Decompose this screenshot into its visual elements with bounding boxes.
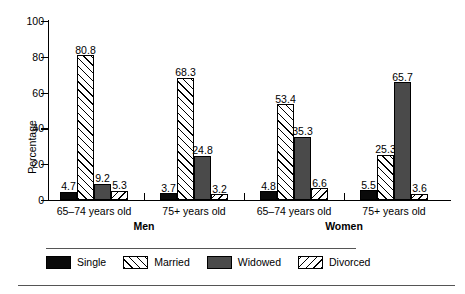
bar-value-label: 9.2 <box>95 173 110 184</box>
chart-legend: SingleMarriedWidowedDivorced <box>46 256 370 269</box>
bar-divorced-1: 3.2 <box>211 194 228 200</box>
legend-item-widowed[interactable]: Widowed <box>207 256 281 269</box>
legend-item-single[interactable]: Single <box>46 256 106 269</box>
group-separator-tick <box>244 193 245 200</box>
bar-value-label: 68.3 <box>175 67 195 78</box>
y-axis-tick-label: 40 <box>32 123 44 134</box>
bar-value-label: 25.3 <box>375 144 395 155</box>
bar-value-label: 3.7 <box>161 183 176 194</box>
legend-item-divorced[interactable]: Divorced <box>298 256 370 269</box>
legend-swatch-divorced <box>298 256 323 269</box>
y-axis-tick-label: 20 <box>32 159 44 170</box>
legend-label: Widowed <box>238 257 281 268</box>
bar-divorced-0: 5.3 <box>111 191 128 200</box>
bar-value-label: 5.3 <box>112 180 127 191</box>
y-axis-tick-label: 60 <box>32 87 44 98</box>
bottom-divider <box>18 285 455 286</box>
bar-value-label: 80.8 <box>75 45 95 56</box>
group-separator-tick <box>144 193 145 200</box>
bar-value-label: 4.8 <box>261 181 276 192</box>
legend-label: Single <box>77 257 106 268</box>
legend-label: Divorced <box>329 257 370 268</box>
bar-married-0: 80.8 <box>77 55 94 200</box>
bar-married-3: 25.3 <box>377 155 394 200</box>
x-axis-category-label: 65–74 years old <box>57 205 132 217</box>
bar-value-label: 4.7 <box>61 181 76 192</box>
bar-widowed-0: 9.2 <box>94 184 111 200</box>
bar-value-label: 3.2 <box>212 184 227 195</box>
bar-single-0: 4.7 <box>60 192 77 200</box>
y-axis-tick-label: 100 <box>26 16 44 27</box>
legend-swatch-married <box>123 256 148 269</box>
bar-value-label: 24.8 <box>192 145 212 156</box>
y-axis-tick-label: 0 <box>38 195 44 206</box>
bar-widowed-3: 65.7 <box>394 82 411 200</box>
bar-divorced-3: 3.6 <box>411 194 428 200</box>
bar-chart: Percentage 0204060801004.780.89.25.33.76… <box>0 0 465 294</box>
legend-divider <box>46 248 356 249</box>
plot-area: 0204060801004.780.89.25.33.768.324.83.24… <box>48 21 450 200</box>
bar-married-2: 53.4 <box>277 104 294 200</box>
bar-value-label: 5.5 <box>361 180 376 191</box>
bar-value-label: 6.6 <box>312 178 327 189</box>
x-axis-line <box>48 200 451 201</box>
legend-swatch-widowed <box>207 256 232 269</box>
bar-value-label: 65.7 <box>392 72 412 83</box>
bar-value-label: 35.3 <box>292 126 312 137</box>
x-axis-category-label: 65–74 years old <box>257 205 332 217</box>
bar-married-1: 68.3 <box>177 78 194 200</box>
x-axis-category-label: 75+ years old <box>162 205 225 217</box>
bar-widowed-1: 24.8 <box>194 156 211 200</box>
bar-single-3: 5.5 <box>360 190 377 200</box>
legend-label: Married <box>154 257 190 268</box>
bar-value-label: 53.4 <box>275 94 295 105</box>
bar-divorced-2: 6.6 <box>311 188 328 200</box>
legend-item-married[interactable]: Married <box>123 256 190 269</box>
x-axis-category-label: 75+ years old <box>362 205 425 217</box>
x-axis-supergroup-label: Women <box>325 220 363 232</box>
y-axis-tick-label: 80 <box>32 52 44 63</box>
x-axis-supergroup-label: Men <box>134 220 155 232</box>
group-separator-tick <box>344 193 345 200</box>
bar-widowed-2: 35.3 <box>294 137 311 200</box>
bar-single-1: 3.7 <box>160 193 177 200</box>
bar-value-label: 3.6 <box>412 183 427 194</box>
legend-swatch-single <box>46 256 71 269</box>
bar-single-2: 4.8 <box>260 191 277 200</box>
